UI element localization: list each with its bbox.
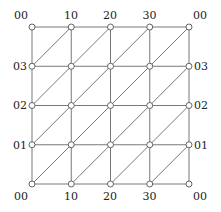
bottom-label: 10	[64, 190, 78, 203]
vertex-node	[29, 181, 35, 187]
vertex-node	[147, 103, 153, 109]
torus-grid-diagram: 00 10 20 30 00 00 10 20 30 00 03 02 01 0…	[0, 0, 221, 212]
diagonal-edge	[71, 27, 110, 66]
diagonal-edge	[150, 27, 189, 66]
vertex-node	[29, 24, 35, 30]
top-label: 20	[103, 9, 117, 22]
top-label: 00	[14, 9, 28, 22]
diagonal-edge	[111, 66, 150, 105]
right-label: 03	[194, 60, 208, 73]
vertex-node	[68, 103, 74, 109]
vertex-node	[108, 142, 114, 148]
diagonal-edge	[71, 66, 110, 105]
vertex-node	[186, 24, 192, 30]
vertex-node	[108, 24, 114, 30]
vertex-node	[147, 24, 153, 30]
diagonal-edge	[111, 106, 150, 145]
left-label: 02	[13, 99, 27, 112]
right-label: 02	[194, 99, 208, 112]
diagonal-edge	[150, 66, 189, 105]
bottom-label: 00	[193, 190, 207, 203]
vertex-node	[29, 103, 35, 109]
diagonal-edge	[32, 27, 71, 66]
vertex-node	[186, 63, 192, 69]
left-label: 01	[13, 139, 27, 152]
left-label: 03	[13, 60, 27, 73]
top-label: 10	[64, 9, 78, 22]
bottom-label: 30	[143, 190, 157, 203]
diagonal-edge	[111, 145, 150, 184]
vertex-node	[186, 142, 192, 148]
diagonal-edge	[32, 66, 71, 105]
vertex-node	[147, 142, 153, 148]
diagonal-edge	[32, 145, 71, 184]
bottom-label: 20	[103, 190, 117, 203]
vertex-node	[186, 181, 192, 187]
vertex-node	[68, 142, 74, 148]
top-label: 30	[143, 9, 157, 22]
bottom-label: 00	[14, 190, 28, 203]
diagonal-edge	[150, 145, 189, 184]
top-label: 00	[193, 9, 207, 22]
vertex-node	[68, 181, 74, 187]
diagonal-edge	[111, 27, 150, 66]
vertex-node	[147, 181, 153, 187]
vertex-node	[68, 63, 74, 69]
diagonal-edge	[71, 145, 110, 184]
vertex-node	[147, 63, 153, 69]
diagonal-edge	[71, 106, 110, 145]
vertex-node	[68, 24, 74, 30]
diagonal-edge	[150, 106, 189, 145]
vertex-node	[108, 63, 114, 69]
right-label: 01	[194, 139, 208, 152]
vertex-node	[108, 181, 114, 187]
vertex-node	[186, 103, 192, 109]
diagonal-edge	[32, 106, 71, 145]
vertex-node	[29, 63, 35, 69]
vertex-node	[29, 142, 35, 148]
vertex-node	[108, 103, 114, 109]
